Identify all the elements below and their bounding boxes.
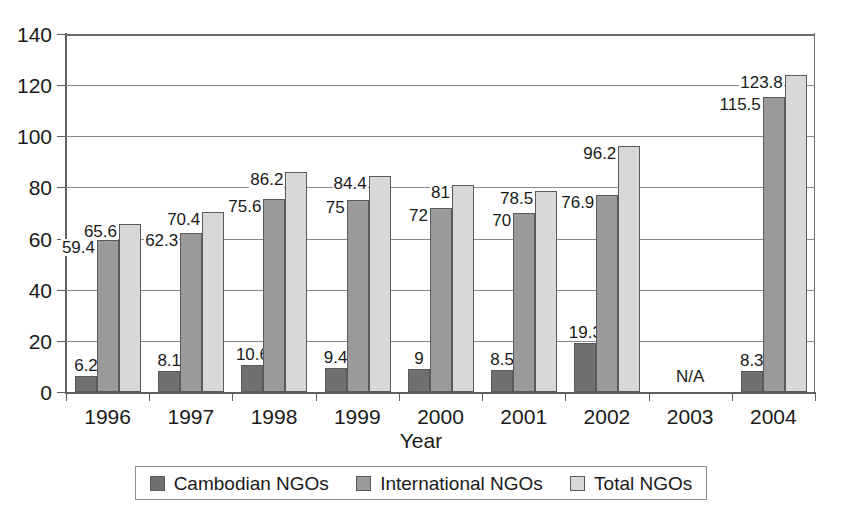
bar: 59.4 (97, 240, 119, 392)
bar: 9.4 (325, 368, 347, 392)
bar-value-label: 70 (491, 212, 512, 229)
bar-group: 10.675.686.2 (232, 34, 315, 392)
legend-swatch-icon (150, 476, 165, 491)
bar: 96.2 (618, 146, 640, 392)
bar: 81 (452, 185, 474, 392)
x-axis-category-label: 1998 (232, 406, 315, 427)
bar-value-label: 62.3 (144, 232, 179, 249)
y-axis-tick (57, 34, 66, 35)
y-axis-tick-label: 0 (40, 382, 52, 403)
bar: 8.1 (158, 371, 180, 392)
bar-group: 6.259.465.6 (66, 34, 149, 392)
bar-group: N/A (649, 34, 732, 392)
y-axis-tick-label: 80 (29, 177, 52, 198)
y-axis-tick-label: 60 (29, 228, 52, 249)
x-axis-separator (149, 392, 150, 401)
bar: 19.3 (574, 343, 596, 392)
y-axis-tick (57, 341, 66, 342)
bar: 78.5 (535, 191, 557, 392)
x-axis-category-label: 1997 (149, 406, 232, 427)
bar: 6.2 (75, 376, 97, 392)
bar-group: 8.3115.5123.8 (732, 34, 815, 392)
bar: 123.8 (785, 75, 807, 392)
y-axis-tick (57, 392, 66, 393)
bar-value-label: 96.2 (582, 145, 617, 162)
bar: 76.9 (596, 195, 618, 392)
x-axis-category-label: 2000 (399, 406, 482, 427)
legend-label: Cambodian NGOs (174, 474, 329, 493)
bar-value-label: 70.4 (166, 211, 201, 228)
x-axis-separator (66, 392, 67, 401)
bar: 70.4 (202, 212, 224, 392)
bar: 65.6 (119, 224, 141, 392)
bar-value-label: 72 (408, 207, 429, 224)
legend-item[interactable]: Total NGOs (570, 474, 692, 493)
y-axis-tick (57, 290, 66, 291)
bar: 75 (347, 200, 369, 392)
bar: 9 (408, 369, 430, 392)
bar-value-label: 76.9 (560, 194, 595, 211)
bar-value-label: 86.2 (249, 171, 284, 188)
bar-value-label: 84.4 (333, 175, 368, 192)
bar-value-label: 9.4 (323, 349, 349, 366)
bar: 62.3 (180, 233, 202, 392)
bar-value-label: 78.5 (499, 190, 534, 207)
bar: 70 (513, 213, 535, 392)
x-axis-separator (732, 392, 733, 401)
y-axis-tick (57, 85, 66, 86)
x-axis-separator (815, 392, 816, 401)
legend-label: International NGOs (380, 474, 543, 493)
x-axis-separator (649, 392, 650, 401)
bar-value-label: 65.6 (83, 223, 118, 240)
bar-value-label: 123.8 (739, 74, 784, 91)
bar: 86.2 (285, 172, 307, 392)
bar-value-label: 75.6 (227, 198, 262, 215)
bar: 8.3 (741, 371, 763, 392)
y-axis-tick-label: 120 (17, 75, 52, 96)
x-axis-category-label: 1999 (316, 406, 399, 427)
bar: 115.5 (763, 97, 785, 392)
bar-value-label: 8.5 (489, 351, 515, 368)
legend-swatch-icon (570, 476, 585, 491)
bar: 8.5 (491, 370, 513, 392)
bar-group: 9.47584.4 (316, 34, 399, 392)
bar: 10.6 (241, 365, 263, 392)
x-axis-category-label: 2004 (732, 406, 815, 427)
bar: 75.6 (263, 199, 285, 392)
bar-value-label: 6.2 (73, 357, 99, 374)
x-axis-separator (316, 392, 317, 401)
bar-chart: 020406080100120140 6.259.465.68.162.370.… (0, 0, 842, 528)
chart-legend: Cambodian NGOsInternational NGOsTotal NG… (135, 466, 707, 500)
bar-value-label: 75 (325, 199, 346, 216)
y-axis-tick-label: 140 (17, 24, 52, 45)
bar: 72 (430, 208, 452, 392)
x-axis-category-label: 2003 (649, 406, 732, 427)
plot-area: 020406080100120140 6.259.465.68.162.370.… (66, 34, 815, 392)
x-axis-separator (232, 392, 233, 401)
x-axis-title: Year (0, 430, 842, 451)
legend-item[interactable]: Cambodian NGOs (150, 474, 329, 493)
y-axis-tick (57, 136, 66, 137)
y-axis-tick (57, 187, 66, 188)
bar-value-label: 59.4 (61, 239, 96, 256)
x-axis-separator (565, 392, 566, 401)
y-axis-tick-label: 20 (29, 330, 52, 351)
x-axis-category-label: 2002 (565, 406, 648, 427)
bar-group: 19.376.996.2 (565, 34, 648, 392)
x-axis-category-label: 1996 (66, 406, 149, 427)
bar-group: 8.162.370.4 (149, 34, 232, 392)
bar-group: 8.57078.5 (482, 34, 565, 392)
legend-item[interactable]: International NGOs (356, 474, 543, 493)
bar-value-label: 115.5 (718, 96, 761, 113)
bar-value-label: 81 (430, 184, 451, 201)
y-axis-tick-label: 100 (17, 126, 52, 147)
bar-value-label: 8.3 (739, 352, 765, 369)
bar-value-label: 8.1 (156, 352, 182, 369)
x-axis-category-label: 2001 (482, 406, 565, 427)
bar-group: 97281 (399, 34, 482, 392)
y-axis-tick-label: 40 (29, 279, 52, 300)
bar-value-label: 9 (413, 350, 424, 367)
legend-swatch-icon (356, 476, 371, 491)
na-annotation: N/A (676, 368, 704, 392)
x-axis-separator (482, 392, 483, 401)
